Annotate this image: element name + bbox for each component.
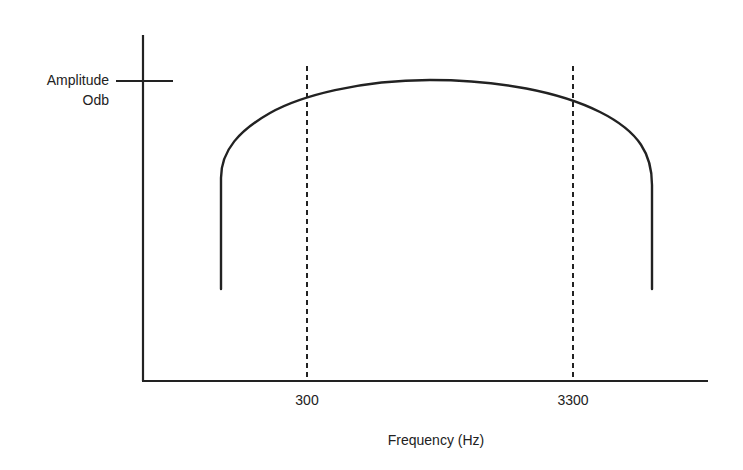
y-axis-label-odb: Odb — [83, 92, 109, 108]
y-axis-label-amplitude: Amplitude — [47, 72, 109, 88]
x-tick-label-3300: 3300 — [557, 392, 588, 408]
x-axis-title: Frequency (Hz) — [388, 432, 484, 448]
frequency-response-diagram — [0, 0, 743, 470]
frequency-response-curve — [221, 80, 652, 289]
x-tick-label-300: 300 — [295, 392, 318, 408]
